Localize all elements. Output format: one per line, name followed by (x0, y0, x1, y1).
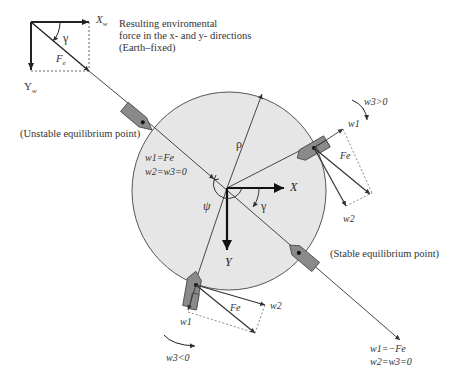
caption-line-2: force in the x- and y- directions (119, 30, 251, 42)
psi-label: ψ (203, 200, 210, 212)
bottom-w1-label: w1 (180, 316, 192, 328)
gamma-label: γ (63, 32, 68, 44)
fe-label: Fe (56, 52, 66, 69)
stable-eq2: w2=w3=0 (370, 356, 412, 368)
gamma-body-label: γ (261, 200, 266, 212)
caption-line-3: (Earth–fixed) (119, 42, 176, 54)
w3-negative-moment-arrow (164, 335, 195, 346)
x-label: X (290, 181, 297, 193)
y-label: Y (225, 256, 232, 268)
rho-label: ρ (236, 138, 242, 150)
unstable-point-title: (Unstable equilibrium point) (20, 128, 140, 140)
diagram-canvas (0, 0, 453, 380)
yw-label: Yw (24, 80, 37, 97)
right-w2-label: w2 (343, 213, 355, 225)
caption-line-1: Resulting enviromental (119, 18, 217, 30)
unstable-eq1: w1=Fe (145, 152, 174, 164)
xw-label: Xw (96, 13, 107, 30)
fe-arrow (196, 285, 255, 333)
right-fe-label: Fe (340, 150, 351, 162)
gamma-angle-arc (53, 22, 60, 41)
right-w1-label: w1 (348, 118, 360, 130)
w3-negative-label: w3<0 (166, 352, 189, 364)
stable-eq1: w1=−Fe (370, 343, 406, 355)
w3-positive-label: w3>0 (364, 96, 387, 108)
bottom-w2-label: w2 (270, 300, 282, 312)
unstable-eq2: w2=w3=0 (145, 166, 187, 178)
stable-point-title: (Stable equilibrium point) (330, 248, 439, 260)
bottom-fe-label: Fe (230, 302, 241, 314)
